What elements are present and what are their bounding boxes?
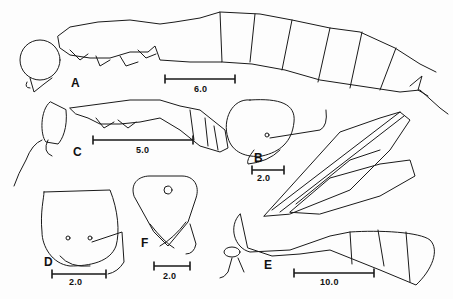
morphology-figure: A 6.0 B 2.0 C 5.0 D 2.0 E 10.0 F 2.0 bbox=[0, 0, 453, 299]
scale-bar-c bbox=[93, 136, 193, 144]
panel-label-c: C bbox=[73, 145, 82, 159]
scale-value-f: 2.0 bbox=[163, 271, 176, 281]
panel-label-a: A bbox=[71, 76, 80, 90]
panel-d-drawing bbox=[41, 190, 124, 274]
scale-value-d: 2.0 bbox=[69, 277, 82, 287]
scale-value-c: 5.0 bbox=[136, 145, 149, 155]
panel-a-drawing bbox=[20, 12, 448, 114]
scale-value-a: 6.0 bbox=[194, 84, 207, 94]
panel-e-drawing bbox=[220, 112, 434, 285]
line-drawings bbox=[0, 0, 453, 299]
scale-value-e: 10.0 bbox=[320, 277, 339, 287]
scale-bar-a bbox=[165, 75, 235, 83]
panel-label-d: D bbox=[44, 255, 53, 269]
scale-value-b: 2.0 bbox=[257, 173, 270, 183]
panel-label-f: F bbox=[141, 236, 148, 250]
scale-bar-f bbox=[154, 262, 190, 270]
scale-bar-e bbox=[294, 269, 374, 277]
panel-b-drawing bbox=[226, 100, 326, 164]
panel-label-b: B bbox=[254, 151, 263, 165]
panel-label-e: E bbox=[264, 258, 272, 272]
panel-c-drawing bbox=[14, 100, 228, 186]
